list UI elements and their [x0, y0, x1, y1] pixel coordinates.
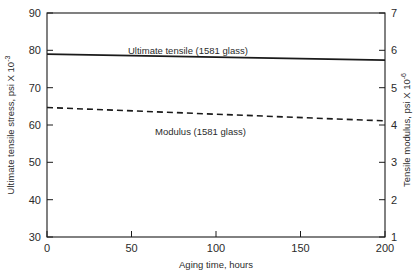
y2-tick-label-5: 5 — [391, 82, 397, 94]
series-label-modulus: Modulus (1581 glass) — [155, 126, 246, 137]
x-axis-ticks — [47, 231, 385, 237]
y-axis-title-text: Ultimate tensile stress, psi X 10 — [5, 62, 16, 195]
y2-axis-title-text: Tensile modulus, psi X 10 — [401, 79, 412, 187]
y-tick-label-80: 80 — [29, 44, 41, 56]
y-axis-title-group: Ultimate tensile stress, psi X 10-3 — [4, 56, 16, 195]
y2-tick-label-4: 4 — [391, 119, 397, 131]
x-tick-label-50: 50 — [125, 242, 137, 254]
y2-axis-title-group: Tensile modulus, psi X 10-6 — [400, 73, 412, 187]
y2-tick-label-3: 3 — [391, 156, 397, 168]
y2-axis-title: Tensile modulus, psi X 10-6 — [400, 73, 412, 187]
y-tick-label-30: 30 — [29, 231, 41, 243]
y2-tick-label-7: 7 — [391, 7, 397, 19]
y-tick-label-90: 90 — [29, 7, 41, 19]
y-axis-title-exponent: -3 — [4, 56, 11, 62]
y2-axis-title-exponent: -6 — [400, 73, 407, 79]
series-label-ultimate-tensile: Ultimate tensile (1581 glass) — [128, 45, 248, 56]
x-tick-label-0: 0 — [44, 242, 50, 254]
y-axis-ticks — [47, 13, 53, 237]
x-tick-label-200: 200 — [376, 242, 394, 254]
y2-tick-label-2: 2 — [391, 194, 397, 206]
series-line-modulus — [47, 108, 385, 121]
y-axis-title: Ultimate tensile stress, psi X 10-3 — [4, 56, 16, 195]
y-tick-label-50: 50 — [29, 156, 41, 168]
chart-svg: 90 80 70 60 50 40 30 7 6 5 4 3 2 1 0 50 … — [0, 0, 419, 278]
chart-figure: 90 80 70 60 50 40 30 7 6 5 4 3 2 1 0 50 … — [0, 0, 419, 278]
y2-axis-ticks — [379, 13, 385, 237]
x-tick-label-100: 100 — [207, 242, 225, 254]
y-tick-label-60: 60 — [29, 119, 41, 131]
y-tick-label-70: 70 — [29, 82, 41, 94]
x-tick-label-150: 150 — [291, 242, 309, 254]
y2-tick-label-6: 6 — [391, 44, 397, 56]
y-tick-label-40: 40 — [29, 194, 41, 206]
x-axis-title: Aging time, hours — [179, 259, 253, 270]
